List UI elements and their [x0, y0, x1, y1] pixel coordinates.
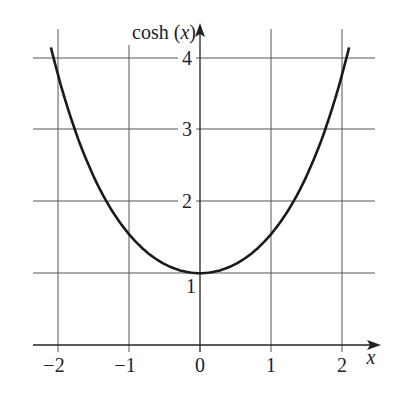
x-tick-label-0: 0	[195, 354, 205, 376]
x-tick-label-neg1: −1	[114, 354, 135, 376]
axes	[33, 23, 381, 352]
y-axis-label-fn: cosh (	[132, 21, 181, 44]
y-tick-label-1: 1	[186, 275, 196, 297]
x-axis-label: x	[366, 346, 376, 368]
x-tick-label-2: 2	[337, 354, 347, 376]
y-axis-label-var: x	[179, 21, 189, 43]
y-tick-label-4: 4	[182, 47, 192, 69]
cosh-chart: 4 3 2 1 −2 −1 0 1 2 x cosh (x)	[0, 0, 409, 398]
y-axis-label: cosh (x)	[132, 21, 196, 44]
y-tick-label-2: 2	[182, 190, 192, 212]
grid	[33, 29, 375, 352]
x-tick-label-neg2: −2	[43, 354, 64, 376]
x-tick-label-1: 1	[266, 354, 276, 376]
y-tick-label-3: 3	[182, 118, 192, 140]
y-axis-label-close: )	[189, 21, 196, 44]
